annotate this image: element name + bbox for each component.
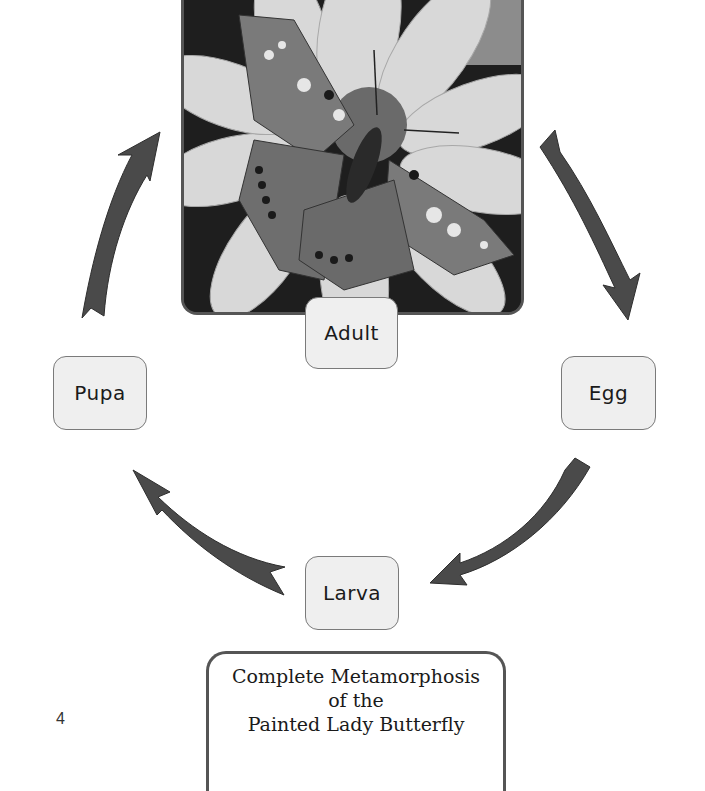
page-number: 4: [56, 710, 65, 728]
stage-adult-label: Adult: [324, 321, 379, 345]
stage-pupa-label: Pupa: [74, 381, 125, 405]
title-line-3: Painted Lady Butterfly: [209, 712, 503, 736]
arrow-larva-to-pupa-icon: [133, 470, 285, 595]
arrow-adult-to-egg-icon: [540, 130, 640, 320]
stage-larva-box: Larva: [305, 556, 399, 630]
arrow-egg-to-larva-icon: [430, 458, 590, 585]
stage-larva-label: Larva: [323, 581, 381, 605]
diagram-title-box: Complete Metamorphosis of the Painted La…: [206, 651, 506, 791]
title-line-1: Complete Metamorphosis: [209, 664, 503, 688]
arrow-pupa-to-adult-icon: [82, 132, 160, 318]
stage-pupa-box: Pupa: [53, 356, 147, 430]
title-line-2: of the: [209, 688, 503, 712]
stage-egg-box: Egg: [561, 356, 656, 430]
stage-adult-box: Adult: [305, 297, 398, 369]
stage-egg-label: Egg: [589, 381, 629, 405]
